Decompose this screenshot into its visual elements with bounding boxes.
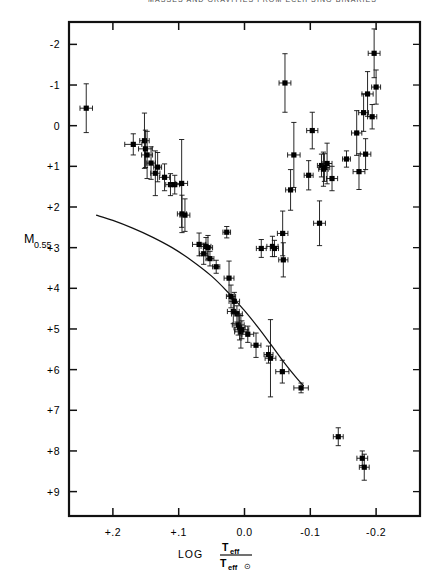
y-tick-label: 0	[54, 120, 60, 132]
data-point	[265, 320, 276, 397]
data-point	[277, 211, 288, 256]
data-point	[294, 383, 308, 393]
y-tick-label: +4	[47, 282, 60, 294]
data-point	[307, 112, 318, 149]
data-point	[279, 243, 288, 277]
data-point	[279, 54, 291, 113]
data-point	[270, 240, 278, 256]
data-point	[353, 154, 365, 190]
x-tick-label: 0.0	[236, 526, 252, 538]
data-point	[372, 70, 381, 104]
y-axis-label-main: M	[24, 232, 34, 246]
running-head: MASSES AND GRAVITIES FROM ECLIPSING BINA…	[148, 0, 442, 10]
data-point	[360, 139, 371, 170]
y-axis-label-subscript: 0.55	[34, 240, 52, 250]
x-tick-label: +.2	[105, 526, 121, 538]
data-point	[170, 175, 180, 194]
data-point	[256, 240, 266, 258]
data-point	[368, 105, 377, 129]
x-axis-label-denominator-main: T	[220, 557, 227, 569]
y-axis-label: M 0.55	[24, 232, 52, 250]
running-head-text: MASSES AND GRAVITIES FROM ECLIPSING BINA…	[148, 0, 442, 3]
solar-symbol-icon: ⊙	[244, 562, 251, 571]
data-point	[288, 122, 301, 187]
data-point	[251, 333, 261, 357]
y-tick-label: +1	[47, 160, 60, 172]
data-point	[352, 111, 362, 156]
data-points-group	[80, 29, 381, 480]
data-point	[80, 84, 93, 133]
x-axis-label-numerator-main: T	[222, 541, 229, 553]
y-tick-label: +2	[47, 201, 60, 213]
x-axis-label: LOG T eff T eff ⊙	[178, 541, 252, 572]
data-point	[151, 151, 160, 196]
x-tick-label: -0.2	[366, 526, 386, 538]
x-tick-label: -0.1	[300, 526, 320, 538]
data-point	[333, 428, 343, 446]
data-point	[357, 451, 368, 466]
y-tick-label: +7	[47, 404, 60, 416]
y-tick-label: +8	[47, 445, 60, 457]
data-point	[359, 94, 369, 131]
y-tick-label: +9	[47, 486, 60, 498]
x-axis-label-log: LOG	[178, 548, 203, 560]
x-tick-label: +.1	[171, 526, 187, 538]
data-point	[304, 161, 313, 190]
data-point	[314, 201, 326, 246]
x-axis-label-denominator-sub: eff	[228, 563, 238, 572]
data-point	[125, 134, 142, 155]
y-tick-label: -1	[50, 79, 60, 91]
axis-tick-labels: -2-10+1+2+3+4+5+6+7+8+9+.2+.10.0-0.1-0.2	[47, 38, 386, 538]
data-point	[343, 151, 351, 167]
y-tick-label: +6	[47, 364, 60, 376]
y-tick-label: +5	[47, 323, 60, 335]
data-point	[140, 113, 149, 168]
scatter-plot: -2-10+1+2+3+4+5+6+7+8+9+.2+.10.0-0.1-0.2…	[0, 0, 442, 584]
data-point	[276, 360, 289, 383]
figure-panel: MASSES AND GRAVITIES FROM ECLIPSING BINA…	[0, 0, 442, 584]
data-point	[213, 260, 220, 273]
y-tick-label: -2	[50, 38, 60, 50]
data-point	[223, 227, 231, 238]
